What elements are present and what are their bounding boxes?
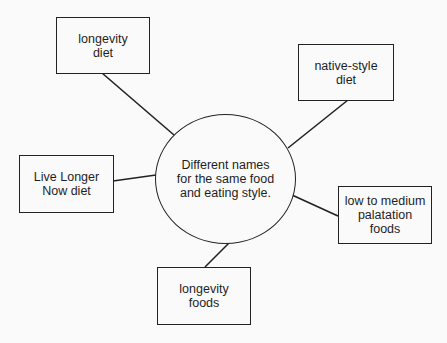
edge-native-style-diet — [288, 100, 348, 148]
node-native-style-diet: native-style diet — [298, 44, 394, 101]
node-label: longevity diet — [78, 32, 127, 60]
node-label: Live Longer Now diet — [34, 170, 99, 198]
edge-live-longer-now-diet — [113, 175, 156, 181]
node-low-to-medium-palatation-foods: low to medium palatation foods — [338, 186, 432, 244]
edge-longevity-foods — [205, 243, 229, 267]
node-longevity-diet: longevity diet — [56, 17, 150, 74]
node-label: native-style diet — [314, 59, 377, 87]
center-node: Different names for the same food and ea… — [155, 114, 296, 244]
edge-low-to-medium-palatation-foods — [292, 195, 338, 216]
diagram-canvas: Different names for the same food and ea… — [0, 0, 447, 343]
edge-longevity-diet — [102, 73, 174, 135]
node-live-longer-now-diet: Live Longer Now diet — [19, 155, 114, 213]
node-label: low to medium palatation foods — [345, 194, 426, 236]
center-node-label: Different names for the same food and ea… — [177, 158, 274, 200]
node-longevity-foods: longevity foods — [157, 267, 251, 325]
node-label: longevity foods — [179, 282, 228, 310]
